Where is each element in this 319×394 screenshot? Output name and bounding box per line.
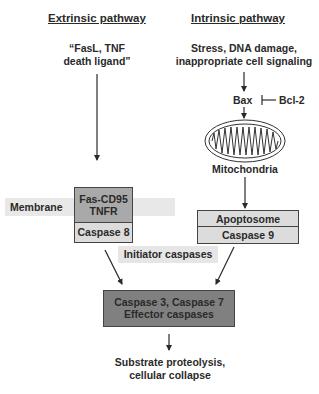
diagram-connectors [0,0,319,394]
caspase9-to-effector-arrow [216,247,234,284]
mitochondrion-icon [205,120,285,162]
caspase8-to-effector-arrow [105,250,122,284]
